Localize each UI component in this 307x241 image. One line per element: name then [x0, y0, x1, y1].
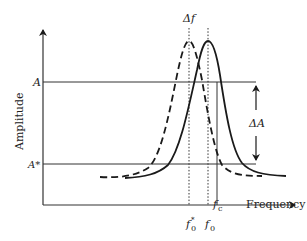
f0-star-label: f 0 *	[185, 216, 196, 233]
x-axis-label: Frequency	[246, 198, 306, 211]
delta-A-label: ΔA	[248, 117, 265, 130]
f0-label: f 0	[204, 218, 215, 233]
f0-star-subscript: 0	[191, 224, 196, 233]
f0-star-superscript: *	[191, 216, 195, 224]
delta-f-label: Δf	[182, 12, 197, 25]
fc-subscript: c	[218, 204, 223, 213]
solid-resonance-curve	[125, 41, 286, 178]
level-label-A: A	[32, 76, 41, 89]
y-axis-label: Amplitude	[13, 92, 26, 151]
resonance-diagram: Amplitude Frequency A A* Δf ΔA f c f 0 *…	[0, 0, 307, 241]
f0-subscript: 0	[210, 224, 215, 233]
level-label-A-star: A*	[27, 159, 40, 170]
